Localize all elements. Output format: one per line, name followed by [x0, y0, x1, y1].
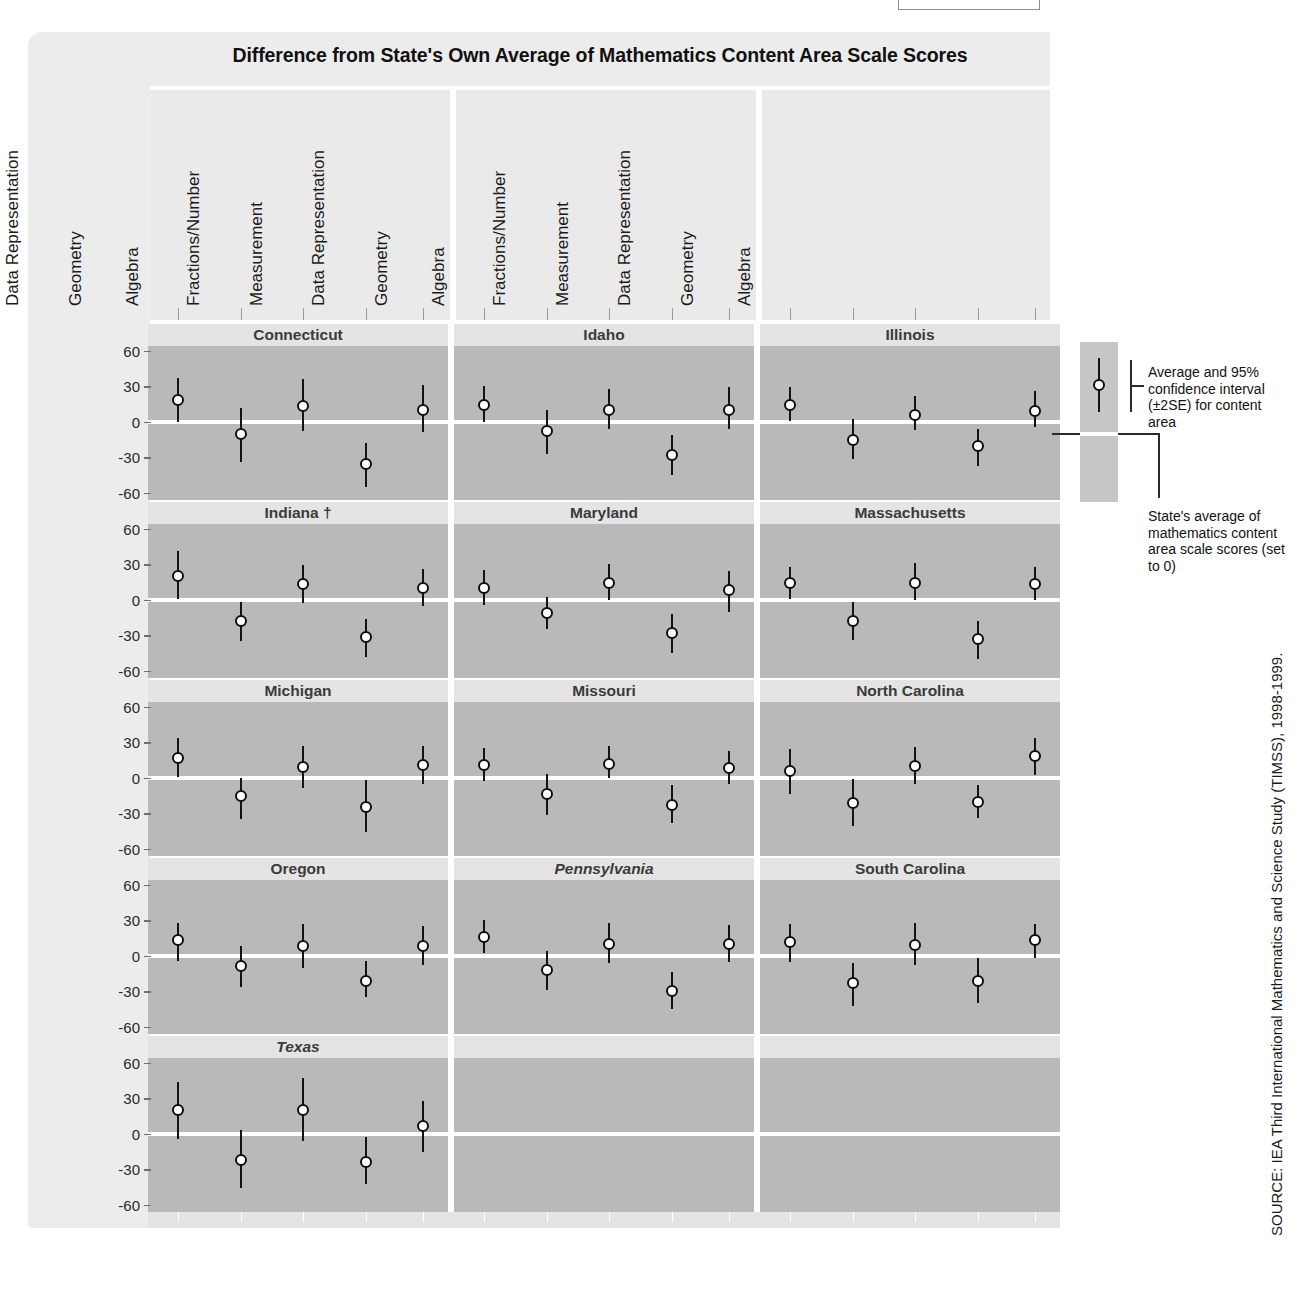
bottom-tick	[303, 1212, 304, 1222]
average-marker	[478, 931, 490, 943]
legend-leader-horizontal-2	[1118, 433, 1160, 435]
legend-label-state-average: State's average of mathematics content a…	[1148, 508, 1288, 574]
panel-title: Missouri	[454, 680, 754, 702]
average-marker	[297, 761, 309, 773]
average-marker	[172, 934, 184, 946]
column-tick	[484, 308, 485, 320]
zero-reference-line	[148, 776, 448, 780]
average-marker	[541, 425, 553, 437]
average-marker	[847, 977, 859, 989]
panel-title: Maryland	[454, 502, 754, 524]
y-axis-tick-label: -30	[96, 449, 140, 466]
panel-plot-area	[148, 1058, 448, 1212]
y-axis-tick-mark	[144, 493, 151, 494]
average-marker	[909, 409, 921, 421]
panel-title: Illinois	[760, 324, 1060, 346]
zero-reference-line	[454, 420, 754, 424]
y-axis-tick-label: 60	[96, 342, 140, 359]
y-axis-tick-mark	[144, 742, 151, 743]
average-marker	[172, 570, 184, 582]
average-marker	[909, 760, 921, 772]
average-marker	[360, 458, 372, 470]
average-marker	[360, 1156, 372, 1168]
panel-north-carolina: North Carolina	[760, 680, 1060, 856]
panel-empty	[454, 1036, 754, 1212]
y-axis-tick-label: 0	[96, 769, 140, 786]
average-marker	[541, 788, 553, 800]
y-axis-tick-label: 0	[96, 947, 140, 964]
y-axis-tick-label: 0	[96, 413, 140, 430]
column-tick	[672, 308, 673, 320]
zero-reference-line	[454, 776, 754, 780]
column-tick	[978, 308, 979, 320]
column-tick	[303, 308, 304, 320]
y-axis-tick-label: 30	[96, 1090, 140, 1107]
y-axis-tick-mark	[144, 813, 151, 814]
legend-label-confidence-interval: Average and 95% confidence interval (±2S…	[1148, 364, 1280, 430]
panel-oregon: Oregon	[148, 858, 448, 1034]
bottom-tick	[915, 1212, 916, 1222]
column-tick	[790, 308, 791, 320]
panel-maryland: Maryland	[454, 502, 754, 678]
y-axis-tick-mark	[144, 386, 151, 387]
zero-reference-line	[148, 420, 448, 424]
average-marker	[972, 440, 984, 452]
average-marker	[172, 752, 184, 764]
panel-plot-area	[454, 702, 754, 856]
legend-leader-line-2	[1158, 434, 1160, 498]
panel-title: South Carolina	[760, 858, 1060, 880]
y-axis-tick-mark	[144, 849, 151, 850]
panel-indiana-: Indiana †	[148, 502, 448, 678]
y-axis-tick-label: -30	[96, 805, 140, 822]
y-axis-tick-mark	[144, 529, 151, 530]
panel-illinois: Illinois	[760, 324, 1060, 500]
y-axis-tick-label: -60	[96, 1196, 140, 1213]
chart-title: Difference from State's Own Average of M…	[150, 44, 1050, 67]
column-tick	[853, 308, 854, 320]
bottom-tick	[484, 1212, 485, 1222]
zero-reference-line	[148, 598, 448, 602]
panel-michigan: Michigan	[148, 680, 448, 856]
y-axis-tick-label: 30	[96, 912, 140, 929]
y-axis-tick-mark	[144, 635, 151, 636]
y-axis: 60300-30-60	[96, 702, 140, 856]
average-marker	[784, 577, 796, 589]
panel-title: North Carolina	[760, 680, 1060, 702]
zero-reference-line	[454, 954, 754, 958]
y-axis-tick-mark	[144, 707, 151, 708]
y-axis-tick-label: 60	[96, 698, 140, 715]
panel-row: ConnecticutIdahoIllinois	[148, 324, 1060, 500]
panel-title	[454, 1036, 754, 1058]
y-axis-tick-mark	[144, 1027, 151, 1028]
panel-plot-area	[454, 524, 754, 678]
average-marker	[235, 428, 247, 440]
y-axis-tick-mark	[144, 1063, 151, 1064]
average-marker	[847, 434, 859, 446]
average-marker	[784, 765, 796, 777]
y-axis-tick-label: 0	[96, 591, 140, 608]
average-marker	[235, 960, 247, 972]
average-marker	[478, 582, 490, 594]
average-marker	[297, 940, 309, 952]
y-axis-tick-label: -60	[96, 1018, 140, 1035]
average-marker	[541, 964, 553, 976]
panel-title: Massachusetts	[760, 502, 1060, 524]
panel-row: Texas	[148, 1036, 1060, 1212]
y-axis-tick-label: 60	[96, 876, 140, 893]
average-marker	[723, 938, 735, 950]
average-marker	[360, 631, 372, 643]
y-axis-tick-label: -60	[96, 662, 140, 679]
average-marker	[1029, 578, 1041, 590]
bottom-tick	[1035, 1212, 1036, 1222]
average-marker	[603, 758, 615, 770]
y-axis: 60300-30-60	[96, 1058, 140, 1212]
average-marker	[541, 607, 553, 619]
average-marker	[1029, 750, 1041, 762]
panel-row: MichiganMissouriNorth Carolina	[148, 680, 1060, 856]
y-axis-tick-label: 30	[96, 378, 140, 395]
panel-title: Oregon	[148, 858, 448, 880]
bottom-tick	[729, 1212, 730, 1222]
zero-reference-line	[760, 1132, 1060, 1136]
legend-zero-line	[1080, 432, 1118, 436]
average-marker	[972, 796, 984, 808]
